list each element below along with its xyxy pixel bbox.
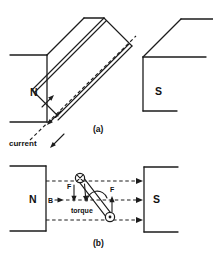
current-out-of-page-dot xyxy=(109,216,112,219)
current-arrow-down1-shaft xyxy=(50,111,61,122)
n-block-top-diagonal xyxy=(47,18,84,55)
panel-a-south-pole-block: S xyxy=(143,19,213,111)
field-label-arrow-head xyxy=(58,197,65,202)
coil-long-edge-right-inner xyxy=(56,44,130,118)
s-pole-label-a: S xyxy=(155,85,162,97)
field-label-B: B xyxy=(48,197,53,204)
panel-a-caption: (a) xyxy=(93,124,104,134)
force-label-right: F xyxy=(110,186,115,193)
s-pole-label-b: S xyxy=(153,193,160,205)
force-arrow-left-head xyxy=(71,196,76,202)
coil-long-edge-right-outer xyxy=(58,46,132,120)
current-label: current xyxy=(9,139,37,148)
panel-b-south-pole-block: S xyxy=(144,167,178,232)
force-arrow-right-head xyxy=(109,196,114,202)
n-pole-label-b: N xyxy=(29,193,37,205)
coil-near-end-edge xyxy=(32,90,58,116)
coil-far-end-edge xyxy=(104,18,132,46)
panel-b: N S B xyxy=(10,166,178,248)
coil-rotation-axis-dashed xyxy=(30,36,136,140)
field-line-top-arrowhead xyxy=(136,178,143,184)
current-arrow-down2-shaft xyxy=(53,134,64,145)
torque-label: torque xyxy=(71,207,93,215)
physics-motor-diagram: N S current xyxy=(0,0,213,260)
panel-b-north-pole-block: N xyxy=(10,166,46,231)
force-label-left: F xyxy=(67,183,72,190)
field-line-middle-arrowhead xyxy=(136,197,143,203)
field-lines: B xyxy=(46,178,143,223)
s-block-top-diagonal xyxy=(143,19,181,57)
panel-a: N S current xyxy=(9,18,213,148)
field-line-bottom-arrowhead xyxy=(136,217,143,223)
panel-b-caption: (b) xyxy=(93,238,104,248)
force-arrow-inner-shaft xyxy=(85,184,86,197)
